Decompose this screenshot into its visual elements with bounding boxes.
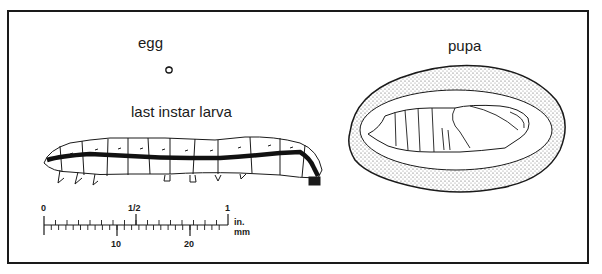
pupa-illustration — [349, 66, 565, 193]
egg-illustration — [166, 67, 172, 73]
scale-inch-half: 1/2 — [128, 203, 141, 213]
scale-unit-mm: mm — [234, 227, 250, 237]
larva-illustration — [44, 137, 322, 185]
scale-unit-in: in. — [234, 217, 245, 227]
scale-inch-0: 0 — [41, 203, 46, 213]
illustration-canvas — [0, 0, 602, 274]
scale-inch-1: 1 — [225, 203, 230, 213]
scale-mm-10: 10 — [111, 239, 121, 249]
scale-mm-20: 20 — [184, 239, 194, 249]
